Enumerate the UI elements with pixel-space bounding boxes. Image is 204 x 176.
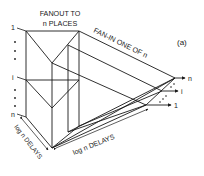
input-leaders [17, 28, 26, 117]
left-delay-label: log n DELAYS [12, 123, 44, 161]
input-label-top: 1 [11, 24, 15, 31]
fanout-fanin-diagram: FANOUT TO n PLACES FAN-IN ONE OF n (a) 1… [0, 0, 204, 176]
output-label-top: n [188, 75, 192, 82]
ellipsis-dots [14, 41, 175, 107]
fanout-label-line1: FANOUT TO [40, 9, 81, 18]
fanin-label: FAN-IN ONE OF n [92, 26, 149, 60]
figure-label: (a) [177, 38, 187, 47]
output-label-middle: i [181, 88, 183, 95]
fanout-label-line2: n PLACES [43, 19, 78, 28]
input-label-bottom: n [11, 111, 15, 118]
input-label-middle: i [12, 74, 14, 81]
output-label-bottom: 1 [174, 102, 178, 109]
